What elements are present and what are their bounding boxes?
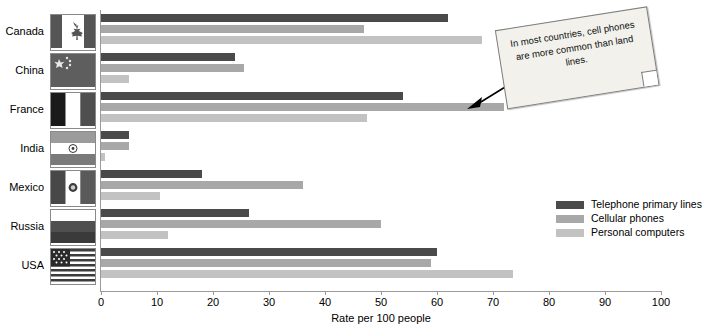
legend-label: Personal computers <box>591 227 684 238</box>
x-tick <box>381 291 382 295</box>
flag-india-icon <box>50 131 96 168</box>
x-tick-label: 30 <box>263 297 275 308</box>
legend-swatch-icon <box>556 229 584 237</box>
x-tick-label: 20 <box>207 297 219 308</box>
bar <box>101 103 504 111</box>
bar <box>101 142 129 150</box>
x-tick-label: 70 <box>487 297 499 308</box>
chart-row: USA <box>0 246 696 285</box>
bar <box>101 192 160 200</box>
bar <box>101 14 448 22</box>
bar-group <box>101 131 661 166</box>
country-label: Canada <box>0 26 44 37</box>
bar <box>101 181 303 189</box>
legend-label: Telephone primary lines <box>591 199 702 210</box>
country-label: Mexico <box>0 182 44 193</box>
bar <box>101 220 381 228</box>
x-tick-label: 40 <box>319 297 331 308</box>
x-tick <box>605 291 606 295</box>
x-tick-label: 50 <box>375 297 387 308</box>
x-tick-label: 90 <box>599 297 611 308</box>
bar <box>101 259 431 267</box>
legend-item: Personal computers <box>556 226 702 239</box>
bar <box>101 153 105 161</box>
x-tick-label: 10 <box>151 297 163 308</box>
bar <box>101 75 129 83</box>
bar <box>101 53 235 61</box>
flag-usa-icon <box>50 248 96 285</box>
x-tick <box>157 291 158 295</box>
x-tick-label: 100 <box>652 297 670 308</box>
flag-china-icon <box>50 53 96 90</box>
bar <box>101 170 202 178</box>
bar <box>101 248 437 256</box>
x-tick <box>549 291 550 295</box>
x-tick <box>437 291 438 295</box>
bar <box>101 36 482 44</box>
legend: Telephone primary linesCellular phonesPe… <box>556 198 702 240</box>
bar <box>101 64 244 72</box>
x-tick <box>325 291 326 295</box>
country-label: China <box>0 65 44 76</box>
country-label: France <box>0 104 44 115</box>
x-tick-label: 60 <box>431 297 443 308</box>
x-tick <box>213 291 214 295</box>
chart-row: India <box>0 129 696 168</box>
bar <box>101 25 364 33</box>
bar <box>101 209 249 217</box>
x-tick <box>101 291 102 295</box>
flag-mexico-icon <box>50 170 96 207</box>
legend-swatch-icon <box>556 215 584 223</box>
flag-canada-icon <box>50 14 96 51</box>
bar <box>101 231 168 239</box>
bar <box>101 92 403 100</box>
bar-group <box>101 248 661 283</box>
legend-label: Cellular phones <box>591 213 664 224</box>
x-tick-label: 80 <box>543 297 555 308</box>
x-tick <box>493 291 494 295</box>
legend-swatch-icon <box>556 201 584 209</box>
country-label: Russia <box>0 221 44 232</box>
bar <box>101 131 129 139</box>
country-label: India <box>0 143 44 154</box>
bar <box>101 270 513 278</box>
flag-france-icon <box>50 92 96 129</box>
x-axis-title: Rate per 100 people <box>101 313 661 324</box>
x-tick-label: 0 <box>98 297 104 308</box>
bar <box>101 114 367 122</box>
legend-item: Telephone primary lines <box>556 198 702 211</box>
country-label: USA <box>0 260 44 271</box>
legend-item: Cellular phones <box>556 212 702 225</box>
x-tick <box>661 291 662 295</box>
flag-russia-icon <box>50 209 96 246</box>
x-tick <box>269 291 270 295</box>
callout-note-fold <box>641 70 658 87</box>
